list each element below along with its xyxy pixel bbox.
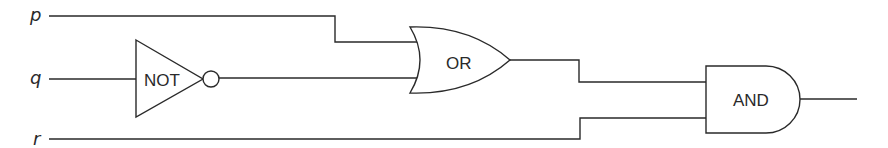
or-gate-label: OR (446, 54, 472, 73)
input-label-p: p (29, 4, 41, 25)
or-gate: OR (410, 27, 510, 93)
input-label-r: r (33, 128, 42, 148)
not-gate-bubble (203, 71, 219, 87)
wire-p-to-or (49, 16, 420, 42)
not-gate-label: NOT (144, 71, 180, 90)
logic-circuit-diagram: p q r NOT OR AND (0, 0, 888, 148)
and-gate: AND (706, 66, 800, 133)
wire-or-to-and (510, 60, 706, 82)
not-gate: NOT (136, 40, 219, 117)
input-label-q: q (30, 67, 41, 88)
and-gate-label: AND (733, 91, 769, 110)
wire-r-to-and (49, 118, 706, 139)
